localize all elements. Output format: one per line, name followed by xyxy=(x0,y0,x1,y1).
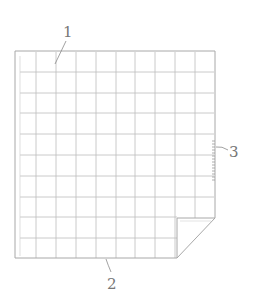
grid-horizontal-lines xyxy=(20,72,214,238)
reference-label-3: 3 xyxy=(229,143,239,161)
reference-label-1: 1 xyxy=(63,23,73,41)
leader-1 xyxy=(55,41,66,64)
leader-3 xyxy=(216,147,228,150)
leader-2 xyxy=(106,259,111,272)
sheet-frame xyxy=(15,51,215,258)
grid-sheet-diagram: 1 2 3 xyxy=(0,0,255,302)
reference-label-2: 2 xyxy=(107,275,117,293)
leader-lines xyxy=(55,41,228,272)
